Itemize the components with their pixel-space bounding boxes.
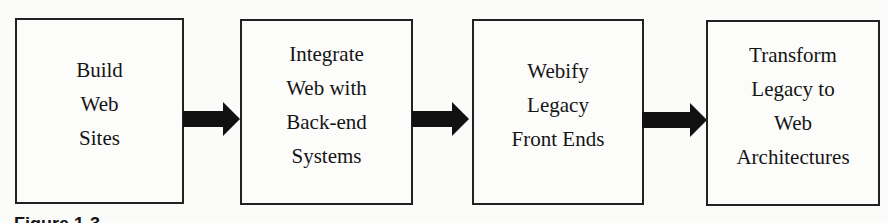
- arrow-right-icon: [183, 100, 241, 138]
- step-label: Webify Legacy Front Ends: [512, 54, 605, 156]
- step-label: Integrate Web with Back-end Systems: [286, 37, 367, 173]
- arrow-right-icon: [642, 101, 708, 139]
- step-label: Transform Legacy to Web Architectures: [736, 38, 849, 174]
- step-integrate-web-backend: Integrate Web with Back-end Systems: [240, 19, 413, 205]
- figure-caption: Figure 1-3: [14, 214, 100, 223]
- arrow-right-icon: [412, 100, 470, 138]
- step-transform-legacy-to-web: Transform Legacy to Web Architectures: [706, 20, 880, 206]
- step-webify-legacy-front-ends: Webify Legacy Front Ends: [472, 19, 644, 205]
- step-label: Build Web Sites: [76, 53, 123, 155]
- step-build-web-sites: Build Web Sites: [15, 18, 184, 204]
